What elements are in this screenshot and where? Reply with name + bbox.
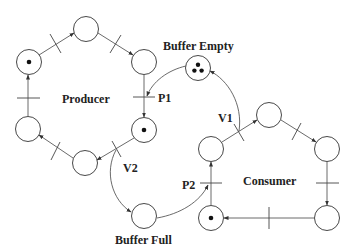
place-prod-top-right	[132, 50, 157, 75]
transition-bar	[50, 34, 61, 53]
place-buffer-full	[132, 204, 157, 229]
place-cons-top	[257, 103, 282, 128]
transition-bar	[110, 35, 121, 53]
petri-net-diagram: Producer Consumer Buffer Empty Buffer Fu…	[0, 0, 353, 251]
p1-label: P1	[158, 91, 171, 105]
arc	[39, 135, 73, 158]
arc-v2-to-buffer-full	[110, 150, 131, 212]
place-prod-bottom-left	[16, 117, 41, 142]
place-cons-bottom-left	[199, 206, 224, 231]
labels: Producer Consumer Buffer Empty Buffer Fu…	[62, 39, 297, 247]
token-dot	[142, 128, 147, 133]
v1-label: V1	[218, 111, 233, 125]
place-cons-top-right	[315, 137, 340, 162]
token-dot	[27, 60, 32, 65]
p2-label: P2	[182, 178, 195, 192]
place-circle	[315, 206, 340, 231]
transition-bar	[51, 142, 60, 160]
token-dot	[192, 68, 196, 72]
place-circle	[199, 137, 224, 162]
buffer-empty-label: Buffer Empty	[163, 39, 234, 53]
place-circle	[16, 117, 41, 142]
place-prod-top-left	[17, 50, 42, 75]
token-dot	[209, 216, 214, 221]
arc	[281, 120, 316, 142]
place-circle	[315, 137, 340, 162]
place-circle	[132, 50, 157, 75]
consumer-label: Consumer	[243, 174, 297, 188]
place-circle	[257, 103, 282, 128]
place-circle	[73, 151, 98, 176]
arc	[97, 138, 134, 160]
place-cons-top-left	[199, 137, 224, 162]
producer-label: Producer	[62, 92, 110, 106]
place-cons-bottom-right	[315, 206, 340, 231]
transition-v1	[234, 124, 244, 141]
place-circle	[74, 17, 99, 42]
place-buffer-empty	[186, 56, 211, 81]
place-circle	[132, 204, 157, 229]
v2-label: V2	[123, 161, 138, 175]
token-dot	[199, 68, 203, 72]
place-circle	[186, 56, 211, 81]
place-prod-bottom-right	[132, 118, 157, 143]
token-dot	[196, 62, 200, 66]
arc	[39, 33, 74, 55]
place-prod-bottom	[73, 151, 98, 176]
buffer-full-label: Buffer Full	[115, 233, 172, 247]
place-prod-top	[74, 17, 99, 42]
